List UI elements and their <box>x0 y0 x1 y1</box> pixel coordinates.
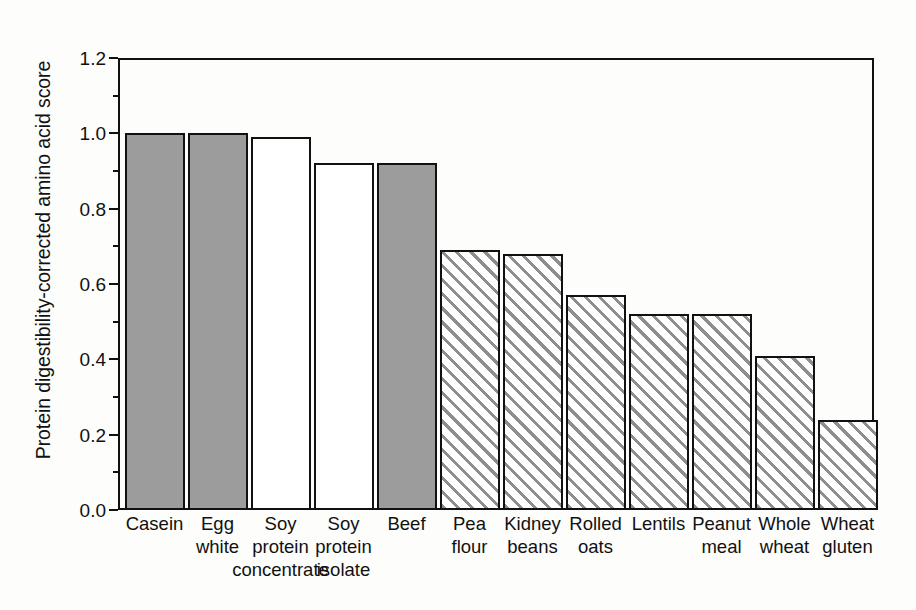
x-category-label-line: gluten <box>788 535 908 558</box>
y-tick-major <box>109 434 118 436</box>
bar <box>314 163 374 510</box>
y-tick-major <box>109 208 118 210</box>
bar <box>629 314 689 510</box>
bar <box>818 420 878 510</box>
bar <box>692 314 752 510</box>
y-tick-major <box>109 509 118 511</box>
bar <box>440 250 500 510</box>
bar <box>188 133 248 510</box>
bar <box>251 137 311 510</box>
chart-figure: Protein digestibility-corrected amino ac… <box>0 0 916 610</box>
bars-container <box>118 58 874 510</box>
y-tick-label: 0.8 <box>60 200 106 219</box>
bar <box>377 163 437 510</box>
y-tick-label: 0.4 <box>60 350 106 369</box>
x-category-label: Wheatgluten <box>788 512 908 558</box>
y-axis-title: Protein digestibility-corrected amino ac… <box>22 10 64 510</box>
bar <box>755 356 815 510</box>
bar <box>566 295 626 510</box>
x-category-label-line: protein <box>284 535 404 558</box>
y-tick-major <box>109 283 118 285</box>
y-tick-major <box>109 358 118 360</box>
x-axis-category-labels: CaseinEggwhiteSoyproteinconcentrateSoypr… <box>118 512 874 608</box>
x-category-label-line: isolate <box>284 558 404 581</box>
y-tick-major <box>109 57 118 59</box>
x-category-label-line: Wheat <box>788 512 908 535</box>
y-tick-major <box>109 132 118 134</box>
x-category-label-line: oats <box>536 535 656 558</box>
y-tick-label: 1.2 <box>60 49 106 68</box>
y-tick-label: 0.6 <box>60 275 106 294</box>
y-tick-label: 1.0 <box>60 124 106 143</box>
bar <box>125 133 185 510</box>
bar <box>503 254 563 510</box>
y-tick-label: 0.2 <box>60 426 106 445</box>
